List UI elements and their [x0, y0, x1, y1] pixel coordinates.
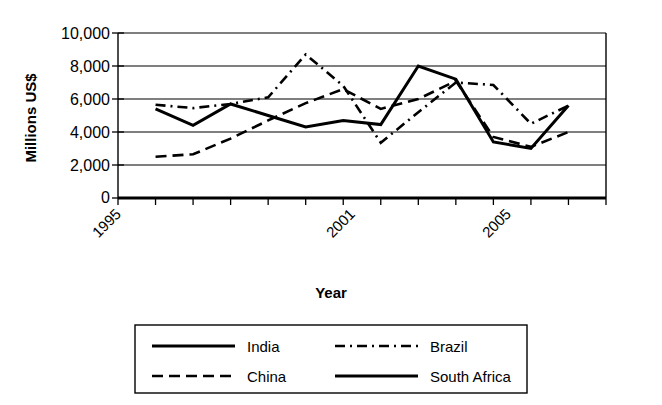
series-line-india	[156, 66, 569, 149]
y-axis-title: Millions US$	[22, 73, 39, 163]
series-layer	[156, 54, 569, 156]
y-tick-label: 0	[101, 189, 110, 206]
legend-label: China	[247, 368, 287, 385]
legend-label: India	[247, 338, 280, 355]
legend-label: South Africa	[430, 368, 512, 385]
chart-svg: 10,000 8,000 6,000 4,000 2,000 0 Million…	[0, 0, 662, 405]
line-chart: 10,000 8,000 6,000 4,000 2,000 0 Million…	[0, 0, 662, 405]
chart-legend: India Brazil China South Africa	[135, 325, 527, 393]
y-axis-tick-labels: 10,000 8,000 6,000 4,000 2,000 0	[61, 25, 110, 206]
y-tick-label: 4,000	[70, 124, 110, 141]
x-tick-label-2005: 2005	[479, 205, 515, 241]
x-axis-tick-labels: 1995 2001 2005	[89, 205, 515, 241]
x-axis-title: Year	[315, 284, 347, 301]
y-tick-label: 8,000	[70, 58, 110, 75]
x-tick-label-1995: 1995	[89, 205, 125, 241]
y-tick-label: 6,000	[70, 91, 110, 108]
y-tick-label: 2,000	[70, 157, 110, 174]
legend-label: Brazil	[430, 338, 468, 355]
plot-grid	[118, 33, 606, 198]
y-tick-label: 10,000	[61, 25, 110, 42]
x-tick-label-2001: 2001	[323, 205, 359, 241]
